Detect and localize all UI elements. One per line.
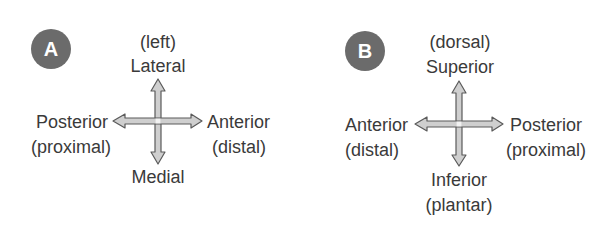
four-way-arrow-icon (305, 0, 610, 229)
panel-a: A (left) Lateral Posterior (proximal) An… (0, 0, 305, 229)
panel-b: B (dorsal) Superior Anterior (distal) Po… (305, 0, 610, 229)
four-way-arrow-icon (0, 0, 305, 229)
